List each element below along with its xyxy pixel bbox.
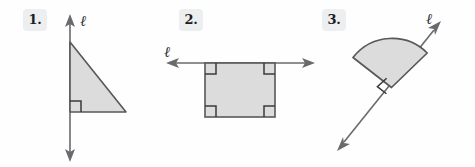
figure-2-rectangle-on-line: ℓ <box>158 0 316 167</box>
figure-3-sector-on-line: ℓ <box>316 0 475 167</box>
line-label-l-2: ℓ <box>164 43 170 61</box>
line-label-l-1: ℓ <box>80 12 86 30</box>
worksheet-page: 1. ℓ 2. <box>0 0 475 167</box>
problem-2: 2. ℓ <box>158 0 316 167</box>
arrowhead-lower-left-icon <box>337 137 350 151</box>
figure-1-right-triangle-on-line: ℓ <box>0 0 158 167</box>
problem-3: 3. ℓ <box>316 0 475 167</box>
line-label-l-3: ℓ <box>426 10 432 28</box>
problem-1: 1. ℓ <box>0 0 158 167</box>
circular-sector-shape <box>353 38 427 87</box>
